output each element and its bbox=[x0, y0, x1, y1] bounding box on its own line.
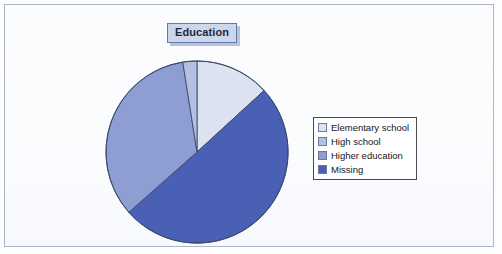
legend-label-elementary-school: Elementary school bbox=[331, 122, 409, 133]
pie-chart-svg bbox=[100, 55, 294, 249]
legend-item-missing[interactable]: Missing bbox=[318, 163, 412, 176]
chart-legend: Elementary school High school Higher edu… bbox=[313, 117, 417, 180]
chart-output-frame: Education Elementary school High school bbox=[4, 4, 494, 247]
pie-chart bbox=[100, 55, 294, 249]
legend-swatch-higher-education bbox=[318, 151, 327, 160]
legend-swatch-missing bbox=[318, 165, 327, 174]
legend-swatch-high-school bbox=[318, 137, 327, 146]
legend-item-high-school[interactable]: High school bbox=[318, 135, 412, 148]
chart-title: Education bbox=[167, 23, 237, 43]
legend-label-missing: Missing bbox=[331, 164, 363, 175]
pie-slice-group bbox=[106, 61, 288, 243]
legend-item-higher-education[interactable]: Higher education bbox=[318, 149, 412, 162]
legend-swatch-elementary-school bbox=[318, 123, 327, 132]
plot-area: Education Elementary school High school bbox=[10, 10, 498, 251]
legend-item-elementary-school[interactable]: Elementary school bbox=[318, 121, 412, 134]
chart-screenshot: Education Elementary school High school bbox=[0, 0, 502, 254]
legend-label-higher-education: Higher education bbox=[331, 150, 403, 161]
legend-label-high-school: High school bbox=[331, 136, 381, 147]
